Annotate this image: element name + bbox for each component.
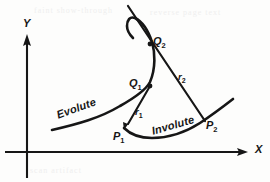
y-axis-label: Y <box>23 18 30 29</box>
radius-label-r1: r1 <box>135 107 143 119</box>
point-label-q2-subscript: 2 <box>162 41 166 50</box>
point-label-q1-subscript: 1 <box>138 83 142 92</box>
point-label-p1-subscript: 1 <box>120 136 124 145</box>
point-label-p2-subscript: 2 <box>213 125 217 134</box>
axis-group <box>5 34 248 178</box>
point-label-q2-base: Q <box>153 35 162 47</box>
point-marker-q1 <box>148 84 153 89</box>
x-axis-label: X <box>255 144 262 155</box>
radius-label-r2: r2 <box>178 72 186 84</box>
point-label-q1-base: Q <box>129 77 138 89</box>
point-marker-q2 <box>148 42 153 47</box>
point-label-q2: Q2 <box>153 36 166 50</box>
point-label-q1: Q1 <box>129 78 142 92</box>
radius-label-r2-subscript: 2 <box>182 77 186 84</box>
evolute-involute-figure: faint show-through reverse page text sca… <box>0 0 270 182</box>
point-label-p2: P2 <box>206 120 218 134</box>
point-label-p1: P1 <box>113 131 125 145</box>
radius-label-r1-subscript: 1 <box>139 112 143 119</box>
